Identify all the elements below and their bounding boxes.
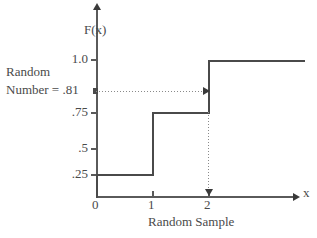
random-number-guide-arrow-icon	[203, 87, 210, 95]
y-tick-mark-0-75	[91, 112, 98, 114]
step-level-1-0	[208, 60, 305, 62]
random-number-horizontal-guide	[96, 91, 206, 92]
y-tick-label-0-75: .75	[62, 105, 88, 119]
random-number-annotation-line1: Random	[6, 65, 50, 79]
chart-caption: Random Sample	[148, 215, 234, 229]
random-number-annotation-line2: Number = .81	[6, 83, 79, 97]
random-sample-guide-arrow-icon	[205, 189, 213, 196]
x-tick-label-2: 2	[204, 198, 211, 212]
random-sample-vertical-guide	[208, 112, 209, 190]
x-axis-arrow-icon	[293, 193, 300, 201]
x-tick-label-1: 1	[148, 198, 155, 212]
y-tick-mark-0-5	[91, 148, 98, 150]
y-tick-label-0-25: .25	[62, 167, 88, 181]
step-riser-at-1	[152, 112, 154, 176]
y-axis-title: F(x)	[84, 23, 106, 37]
x-axis-line	[96, 196, 294, 198]
y-axis-arrow-icon	[93, 3, 101, 10]
x-axis-title: x	[303, 186, 310, 200]
y-tick-mark-1-0	[91, 59, 98, 61]
y-tick-label-1-0: 1.0	[62, 52, 88, 66]
y-tick-label-0-5: .5	[62, 141, 88, 155]
step-riser-at-0	[96, 174, 98, 198]
step-level-0-25	[96, 174, 154, 176]
x-tick-label-0: 0	[92, 198, 99, 212]
cdf-step-chart: F(x) x 1.0 .75 .5 .25 0 1 2 Random Numbe…	[0, 0, 317, 238]
step-level-0-75	[152, 112, 210, 114]
